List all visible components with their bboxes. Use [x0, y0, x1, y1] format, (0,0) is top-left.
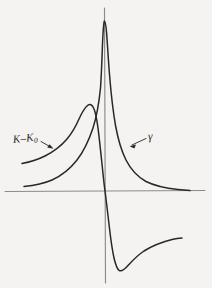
dispersion-curve [22, 104, 182, 270]
absorption-annotation-arrow [130, 139, 146, 149]
dispersion-label-main: K–K [12, 131, 34, 145]
absorption-curve-label: γ [148, 131, 154, 143]
dispersion-annotation-arrow [41, 142, 54, 149]
dispersion-absorption-figure: K–K0 γ [0, 0, 212, 288]
absorption-curve [24, 21, 190, 191]
absorption-arrow-shaft [132, 139, 146, 146]
y-axis [105, 8, 106, 283]
dispersion-label-subscript: 0 [33, 136, 38, 145]
dispersion-arrow-head [47, 144, 53, 149]
dispersion-curve-label: K–K0 [12, 131, 38, 146]
axes-group [5, 8, 205, 283]
absorption-arrow-head [130, 145, 136, 149]
